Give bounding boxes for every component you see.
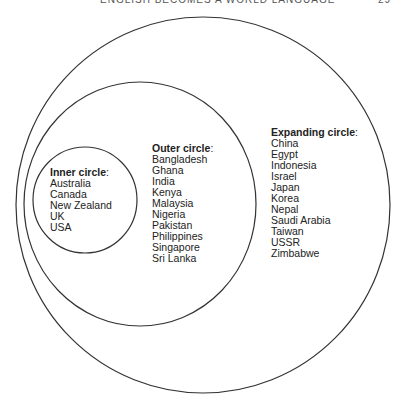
inner-circle-list: Inner circle: Australia Canada New Zeala…: [50, 167, 112, 233]
list-item: USA: [50, 222, 112, 233]
outer-circle-list: Outer circle: Bangladesh Ghana India Ken…: [152, 143, 213, 264]
list-item: Zimbabwe: [271, 248, 358, 259]
list-item: Sri Lanka: [152, 253, 213, 264]
expanding-circle-list: Expanding circle: China Egypt Indonesia …: [271, 127, 358, 259]
